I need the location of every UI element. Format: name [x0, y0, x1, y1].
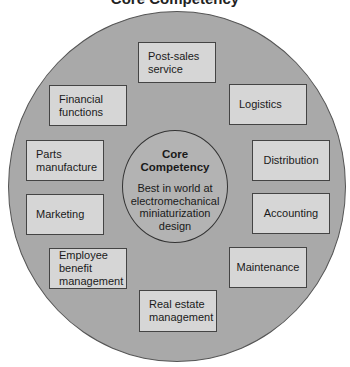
core-competency-diagram: Core Competency Core Competency Best in … [0, 0, 350, 367]
core-heading: Core Competency [123, 148, 227, 174]
box-label: Financial functions [50, 93, 103, 119]
box-label: Marketing [27, 208, 84, 221]
box-parts-manufacture: Parts manufacture [26, 140, 104, 181]
box-maintenance: Maintenance [229, 247, 307, 288]
box-label: Distribution [253, 154, 329, 167]
box-label: Employee benefit management [50, 249, 123, 288]
core-heading-line2: Competency [123, 161, 227, 174]
box-label: Accounting [253, 207, 329, 220]
box-real-estate-management: Real estate management [139, 290, 217, 332]
core-heading-line1: Core [123, 148, 227, 161]
box-label: Real estate management [140, 298, 213, 324]
box-distribution: Distribution [252, 140, 330, 181]
box-employee-benefit-management: Employee benefit management [49, 248, 127, 289]
box-logistics: Logistics [229, 84, 307, 125]
box-financial-functions: Financial functions [49, 85, 127, 126]
box-label: Parts manufacture [27, 148, 97, 174]
box-post-sales-service: Post-sales service [138, 42, 216, 83]
box-accounting: Accounting [252, 193, 330, 234]
box-label: Maintenance [230, 261, 306, 274]
core-description: Best in world at electromechanical minia… [123, 182, 227, 232]
box-label: Logistics [230, 98, 282, 111]
box-marketing: Marketing [26, 194, 104, 235]
box-label: Post-sales service [139, 50, 199, 76]
core-competency-circle: Core Competency Best in world at electro… [122, 130, 228, 243]
diagram-title: Core Competency [0, 0, 350, 7]
